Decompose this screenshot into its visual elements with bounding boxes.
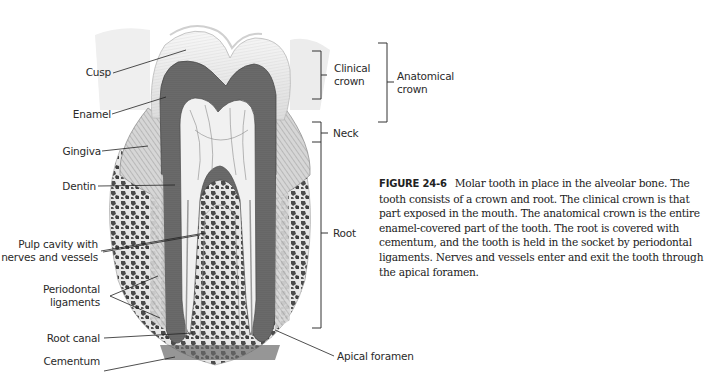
label-root-canal: Root canal: [47, 332, 100, 345]
label-cusp: Cusp: [86, 66, 111, 79]
label-apical-foramen: Apical foramen: [337, 350, 414, 363]
figure-caption-text: Molar tooth in place in the alveolar bon…: [379, 177, 703, 278]
label-cementum: Cementum: [43, 355, 100, 368]
tooth-diagram-figure: Cusp Enamel Gingiva Dentin Pulp cavity w…: [0, 0, 718, 382]
label-enamel: Enamel: [73, 108, 111, 121]
label-periodontal-ligaments: Periodontal ligaments: [43, 283, 100, 308]
label-pulp-cavity: Pulp cavity with nerves and vessels: [1, 238, 98, 263]
adjacent-tooth-right: [290, 39, 330, 110]
label-root: Root: [333, 227, 356, 240]
label-clinical-crown: Clinical crown: [334, 62, 370, 87]
leader-apical-foramen: [275, 330, 334, 356]
figure-caption: FIGURE 24-6Molar tooth in place in the a…: [379, 176, 709, 279]
interradicular-bone: [200, 205, 240, 338]
label-neck: Neck: [333, 127, 358, 140]
label-gingiva: Gingiva: [62, 145, 101, 158]
label-dentin: Dentin: [62, 180, 96, 193]
label-anatomical-crown: Anatomical crown: [397, 70, 454, 95]
figure-number: FIGURE 24-6: [379, 178, 447, 189]
